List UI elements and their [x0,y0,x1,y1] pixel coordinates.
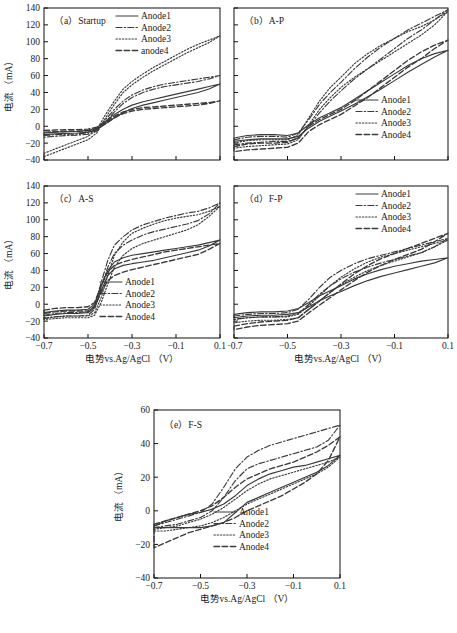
panel-label: （e）F-S [164,419,202,430]
legend-label-anode1: Anode1 [381,189,411,199]
legend-label-anode1: Anode1 [239,507,269,517]
x-tick-label: −0.7 [145,581,162,591]
y-tick-label: −20 [25,139,40,149]
y-tick-label: 40 [31,266,41,276]
legend-label-anode1: Anode1 [125,277,155,287]
legend-label-anode2: Anode2 [125,289,155,299]
plot-a: −40−20020406080100120140（a）StartupAnode1… [0,0,228,178]
legend-label-anode2: Anode2 [381,107,411,117]
x-tick-label: 0.1 [334,581,346,591]
legend-label-anode1: Anode1 [141,11,171,21]
x-tick-label: −0.1 [386,341,403,351]
legend-label-anode3: Anode3 [381,118,411,128]
y-tick-label: 0 [35,300,40,310]
curve-anode3 [234,240,448,323]
y-tick-label: 120 [26,20,41,30]
legend-label-anode4: Anode4 [381,130,411,140]
curve-anode2 [234,238,448,319]
legend-label-anode3: Anode3 [125,300,155,310]
x-tick-label: −0.1 [167,341,184,351]
y-tick-label: 140 [26,181,41,191]
y-axis-title: 电流 （mA） [3,234,14,291]
x-axis-title: 电势vs.Ag/AgCl （V） [294,353,389,364]
x-tick-label: −0.5 [279,341,296,351]
y-tick-label: 100 [26,215,41,225]
y-tick-label: 80 [31,54,41,64]
panel-label: （d）F-P [244,193,282,204]
y-tick-label: 100 [26,37,41,47]
panel-label: （a）Startup [54,15,106,26]
legend-label-anode2: Anode2 [381,201,411,211]
y-tick-label: 80 [31,232,41,242]
legend-label-anode1: Anode1 [381,95,411,105]
panel-label: （b）A-P [244,15,284,26]
y-tick-label: 60 [31,71,41,81]
plot-c: −40−20020406080100120140−0.7−0.5−0.3−0.1… [0,178,228,400]
y-tick-label: −40 [25,155,40,165]
x-tick-label: −0.7 [35,341,52,351]
y-axis-title: 电流 （mA） [113,466,124,523]
curve-anode3 [234,11,448,148]
x-tick-label: −0.3 [123,341,140,351]
curve-anode1 [234,258,448,318]
x-tick-label: −0.5 [79,341,96,351]
panel-e-fs: −40−200204060−0.7−0.5−0.3−0.10.1（e）F-SAn… [110,400,360,633]
y-tick-label: −20 [135,540,150,550]
x-tick-label: −0.5 [192,581,209,591]
legend-label-anode3: Anode3 [381,212,411,222]
panel-b-ap: （b）A-PAnode1Anode2Anode3Anode4 [228,0,457,178]
y-tick-label: 40 [31,88,41,98]
y-tick-label: 20 [31,283,41,293]
y-tick-label: 20 [31,105,41,115]
y-tick-label: −20 [25,317,40,327]
plot-b: （b）A-PAnode1Anode2Anode3Anode4 [228,0,457,178]
y-axis-title: 电流 （mA） [3,56,14,113]
panel-c-as: −40−20020406080100120140−0.7−0.5−0.3−0.1… [0,178,228,400]
x-tick-label: −0.3 [238,581,255,591]
y-tick-label: 60 [141,405,151,415]
plot-frame [234,8,448,160]
y-tick-label: 140 [26,3,41,13]
cv-figure: −40−20020406080100120140（a）StartupAnode1… [0,0,457,633]
legend-label-anode4: Anode4 [381,224,411,234]
y-tick-label: 0 [35,122,40,132]
x-tick-label: 0.1 [214,341,226,351]
panel-d-fp: −0.7−0.5−0.3−0.10.1（d）F-PAnode1Anode2Ano… [228,178,457,400]
x-tick-label: −0.3 [332,341,349,351]
panel-label: （c）A-S [54,193,94,204]
x-axis-title: 电势vs.Ag/AgCl （V） [200,593,295,604]
plot-frame [154,410,340,578]
y-tick-label: 40 [141,439,151,449]
y-tick-label: 0 [145,506,150,516]
legend-label-anode4: Anode4 [239,542,269,552]
y-tick-label: 120 [26,198,41,208]
legend-label-anode4: Anode4 [125,312,155,322]
plot-frame [44,8,220,160]
legend-label-anode3: Anode3 [239,530,269,540]
panel-a-startup: −40−20020406080100120140（a）StartupAnode1… [0,0,228,178]
x-tick-label: −0.7 [228,341,243,351]
legend-label-anode3: Anode3 [141,34,171,44]
legend-label-anode2: Anode2 [141,23,171,33]
y-tick-label: 20 [141,473,151,483]
curve-anode3 [44,36,220,157]
y-tick-label: 60 [31,249,41,259]
x-axis-title: 电势vs.Ag/AgCl （V） [85,353,180,364]
x-tick-label: −0.1 [285,581,302,591]
legend-label-anode4: anode4 [141,46,169,56]
x-tick-label: 0.1 [442,341,454,351]
plot-e: −40−200204060−0.7−0.5−0.3−0.10.1（e）F-SAn… [110,400,360,633]
plot-d: −0.7−0.5−0.3−0.10.1（d）F-PAnode1Anode2Ano… [228,178,457,400]
legend-label-anode2: Anode2 [239,519,269,529]
curve-anode1 [234,50,448,141]
